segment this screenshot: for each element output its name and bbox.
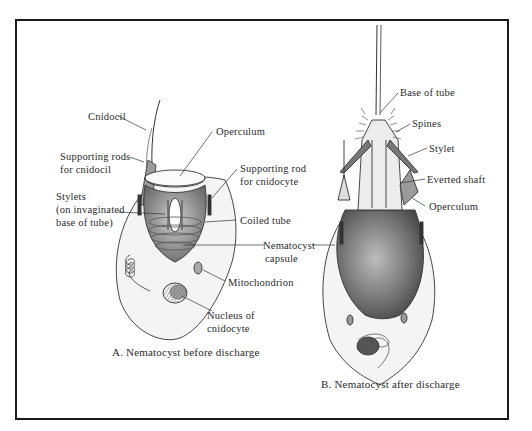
label-operculum-b: Operculum [429,200,478,213]
label-base-of-tube: Base of tube [400,86,455,99]
label-mitochondrion: Mitochondrion [228,276,294,289]
label-nucleus-line2: cnidocyte [207,322,250,335]
caption-panel-a: A. Nematocyst before discharge [112,346,260,359]
caption-panel-b: B. Nematocyst after discharge [321,378,460,391]
label-nucleus: Nucleus of [207,309,255,322]
label-everted-shaft: Everted shaft [427,173,485,186]
label-stylets: Stylets [56,190,86,203]
label-supporting-rods: Supporting rods [60,150,130,163]
label-supporting-rod-cnidocyte: Supporting rod [240,162,306,175]
label-nematocyst-capsule-line2: capsule [265,252,298,265]
label-coiled-tube: Coiled tube [240,214,291,227]
label-supporting-rods-line2: for cnidocil [60,163,111,176]
label-stylets-line3: base of tube) [56,216,113,229]
label-stylets-line2: (on invaginated [56,203,125,216]
label-operculum-a: Operculum [216,125,265,138]
label-cnidocil: Cnidocil [88,110,126,123]
label-nematocyst-capsule: Nematocyst [263,239,315,252]
label-stylet: Stylet [429,142,455,155]
label-spines: Spines [412,117,441,130]
label-supporting-rod-cnidocyte-line2: for cnidocyte [240,175,298,188]
panel-b-drawing [323,25,435,385]
